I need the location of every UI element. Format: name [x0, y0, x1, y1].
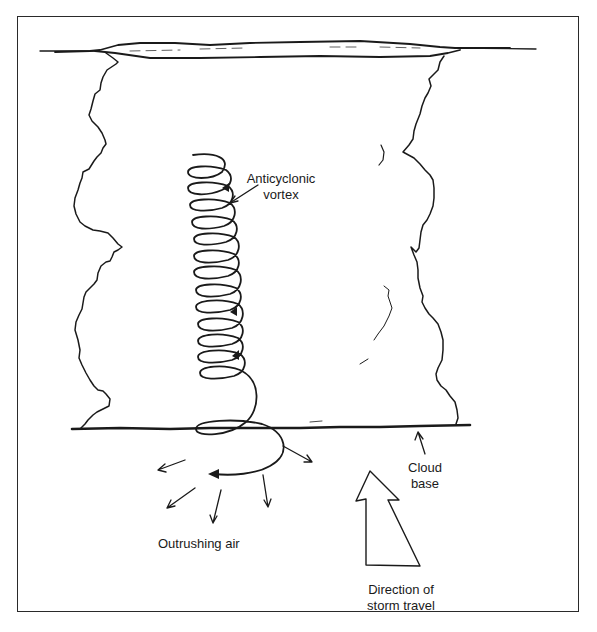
label-line: base: [400, 476, 450, 492]
storm-vortex-diagram: Anticyclonic vortex Cloud base Outrushin…: [0, 0, 597, 632]
label-cloud-base: Cloud base: [400, 460, 450, 492]
label-direction-of-storm-travel: Direction of storm travel: [346, 582, 456, 614]
cloud-base-pointer: [415, 432, 425, 454]
diagram-artwork: [0, 0, 597, 632]
label-line: Anticyclonic: [236, 171, 326, 187]
label-outrushing-air: Outrushing air: [158, 536, 278, 552]
vortex-arrowhead: [208, 469, 219, 479]
cloud-left-edge: [74, 53, 122, 428]
label-line: vortex: [236, 187, 326, 203]
cloud-right-edge: [360, 56, 458, 424]
anvil: [40, 41, 536, 58]
label-anticyclonic-vortex: Anticyclonic vortex: [236, 171, 326, 203]
label-line: storm travel: [346, 598, 456, 614]
label-line: Outrushing air: [158, 536, 278, 552]
label-line: Direction of: [346, 582, 456, 598]
outrushing-air-arrows: [158, 446, 312, 523]
label-line: Cloud: [400, 460, 450, 476]
